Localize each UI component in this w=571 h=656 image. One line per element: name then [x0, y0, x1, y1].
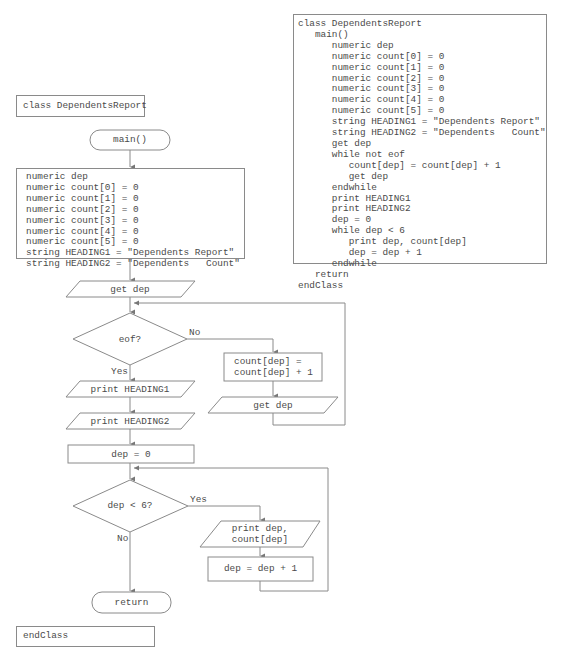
print-heading1-label: print HEADING1: [70, 384, 190, 395]
declarations-box: numeric dep numeric count[0] = 0 numeric…: [16, 168, 245, 259]
dep-zero-label: dep = 0: [68, 449, 194, 460]
print-heading2-label: print HEADING2: [70, 416, 190, 427]
class-label-text: class DependentsReport: [23, 101, 147, 112]
eof-no-label: No: [189, 327, 200, 338]
pseudocode-line: get dep: [298, 172, 546, 183]
return-terminal-label: return: [92, 597, 171, 608]
dep-yes-label: Yes: [190, 494, 207, 505]
eof-decision-label: eof?: [90, 334, 170, 345]
print-dep-label-2: count[dep]: [210, 534, 310, 545]
declaration-line: numeric count[2] = 0: [26, 205, 244, 216]
end-class-box: endClass: [16, 626, 155, 647]
main-terminal-label: main(): [90, 134, 170, 145]
get-dep-label: get dep: [70, 284, 190, 295]
pseudocode-line: numeric count[1] = 0: [298, 63, 546, 74]
pseudocode-box: class DependentsReport main() numeric de…: [293, 14, 547, 264]
count-increment-label-2: count[dep] + 1: [234, 367, 313, 378]
print-dep-label-1: print dep,: [210, 523, 310, 534]
end-class-text: endClass: [23, 631, 68, 642]
pseudocode-line: endClass: [298, 281, 546, 292]
eof-yes-label: Yes: [111, 366, 128, 377]
declaration-line: numeric count[3] = 0: [26, 216, 244, 227]
dep-no-label: No: [117, 533, 128, 544]
class-label-box: class DependentsReport: [16, 95, 145, 117]
count-increment-label-1: count[dep] =: [234, 356, 302, 367]
pseudocode-line: endwhile: [298, 183, 546, 194]
dep-increment-label: dep = dep + 1: [208, 563, 313, 574]
get-dep-loop-label: get dep: [213, 400, 333, 411]
pseudocode-line: numeric count[0] = 0: [298, 52, 546, 63]
dep-lt-6-label: dep < 6?: [90, 500, 170, 511]
declaration-line: string HEADING2 = "Dependents Count": [26, 259, 244, 270]
